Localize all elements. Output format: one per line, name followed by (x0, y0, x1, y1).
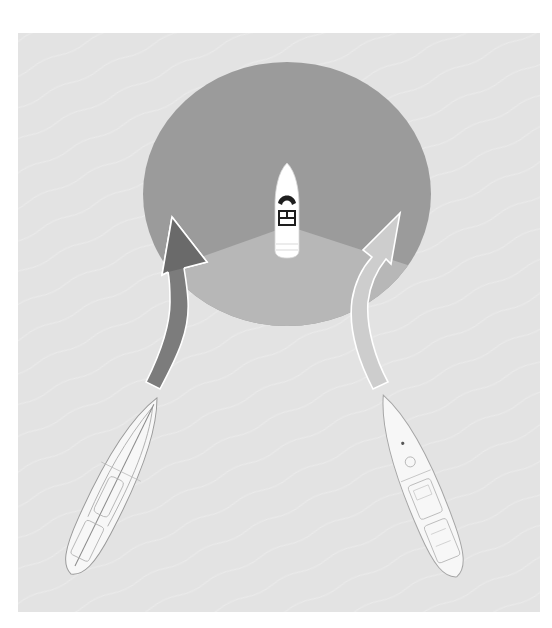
diagram-canvas (0, 0, 552, 628)
powerboat (275, 163, 299, 258)
